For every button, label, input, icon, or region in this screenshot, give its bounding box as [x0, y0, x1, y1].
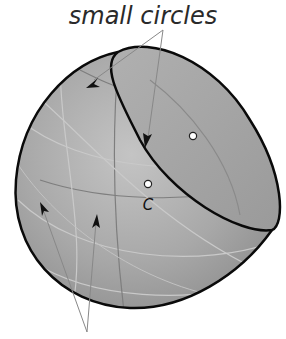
sphere-diagram: small circles C: [0, 0, 286, 339]
sphere-center-dot: [144, 180, 151, 187]
small-circle-pole-dot: [189, 132, 196, 139]
center-label: C: [143, 196, 154, 214]
title-label: small circles: [69, 2, 217, 30]
